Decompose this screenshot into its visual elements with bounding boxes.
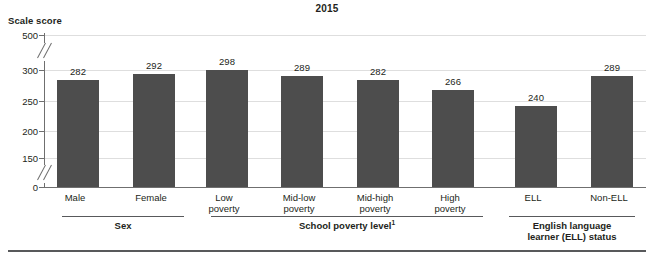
- bar-mid-low-poverty: [281, 76, 323, 187]
- footer-divider: [8, 250, 646, 252]
- group-label-ell-status-line2: learner (ELL) status: [503, 231, 641, 242]
- axis-break-upper: [37, 41, 53, 63]
- category-label-low-poverty-line2: poverty: [194, 204, 254, 215]
- bar-value-low-poverty: 298: [206, 56, 248, 67]
- bar-chart: 2015 Scale score 500 300 250 200 150 0: [0, 0, 654, 260]
- group-label-school-poverty-level-footnote: 1: [391, 219, 395, 226]
- category-label-female: Female: [121, 193, 181, 204]
- category-label-male-line1: Male: [45, 193, 105, 204]
- chart-title: 2015: [0, 3, 654, 14]
- group-label-ell-status: English language learner (ELL) status: [503, 220, 641, 242]
- group-rule-school-poverty-level: [211, 216, 483, 217]
- category-label-low-poverty: Low poverty: [194, 193, 254, 214]
- bar-low-poverty: [206, 70, 248, 187]
- y-tick-label-150: 150: [2, 153, 38, 164]
- category-label-low-poverty-line1: Low: [194, 193, 254, 204]
- group-rule-sex: [62, 216, 184, 217]
- category-label-high-poverty-line1: High: [420, 193, 480, 204]
- bar-value-ell: 240: [515, 92, 557, 103]
- category-label-mid-low-poverty-line2: poverty: [269, 204, 329, 215]
- y-tick-label-250: 250: [2, 96, 38, 107]
- y-tick-label-300: 300: [2, 65, 38, 76]
- bar-value-female: 292: [133, 60, 175, 71]
- group-rule-ell-status: [509, 216, 635, 217]
- category-label-high-poverty-line2: poverty: [420, 204, 480, 215]
- category-label-mid-high-poverty: Mid-high poverty: [345, 193, 405, 214]
- y-tick-label-0: 0: [2, 182, 38, 193]
- y-tick-label-500: 500: [2, 30, 38, 41]
- bar-female: [133, 74, 175, 187]
- category-label-ell: ELL: [503, 193, 563, 204]
- bar-value-high-poverty: 266: [432, 76, 474, 87]
- y-axis-label: Scale score: [8, 15, 62, 26]
- category-label-mid-low-poverty-line1: Mid-low: [269, 193, 329, 204]
- bar-value-mid-low-poverty: 289: [281, 62, 323, 73]
- group-label-school-poverty-level: School poverty level1: [211, 220, 483, 231]
- group-label-sex-text: Sex: [115, 220, 132, 231]
- bar-high-poverty: [432, 90, 474, 187]
- axis-break-lower: [37, 163, 53, 185]
- bar-value-non-ell: 289: [591, 62, 633, 73]
- y-tick-label-200: 200: [2, 126, 38, 137]
- bar-value-mid-high-poverty: 282: [357, 66, 399, 77]
- bar-non-ell: [591, 76, 633, 187]
- bar-male: [57, 80, 99, 187]
- category-label-non-ell-line1: Non-ELL: [579, 193, 639, 204]
- category-label-mid-high-poverty-line2: poverty: [345, 204, 405, 215]
- group-label-school-poverty-level-text: School poverty level: [299, 220, 391, 231]
- bar-value-male: 282: [57, 66, 99, 77]
- bar-ell: [515, 106, 557, 187]
- bar-mid-high-poverty: [357, 80, 399, 187]
- category-label-female-line1: Female: [121, 193, 181, 204]
- group-label-sex: Sex: [62, 220, 184, 231]
- category-label-mid-high-poverty-line1: Mid-high: [345, 193, 405, 204]
- category-label-male: Male: [45, 193, 105, 204]
- category-label-ell-line1: ELL: [503, 193, 563, 204]
- category-label-non-ell: Non-ELL: [579, 193, 639, 204]
- gridline-500: [44, 35, 646, 36]
- category-label-mid-low-poverty: Mid-low poverty: [269, 193, 329, 214]
- group-label-ell-status-line1: English language: [503, 220, 641, 231]
- category-label-high-poverty: High poverty: [420, 193, 480, 214]
- x-axis-baseline: [44, 187, 646, 188]
- plot-area: 282 292 298 289 282 266 240 289: [44, 33, 646, 188]
